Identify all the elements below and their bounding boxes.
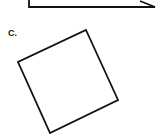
figure-svg bbox=[0, 0, 156, 134]
partial-shape-outline bbox=[29, 0, 155, 7]
figure-label-c: C. bbox=[8, 28, 17, 38]
rotated-square-outline bbox=[18, 30, 118, 133]
diagram-canvas: C. bbox=[0, 0, 156, 134]
